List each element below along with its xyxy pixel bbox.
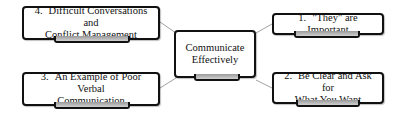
- branch-node-4: 4.Difficult Conversations and Conflict M…: [22, 6, 160, 40]
- branch-4-line1: Difficult Conversations and: [49, 5, 148, 28]
- branch-4-tab: [54, 36, 130, 43]
- center-node: Communicate Effectively: [174, 30, 256, 78]
- branch-3-tab: [54, 102, 130, 109]
- branch-2-tab: [296, 100, 360, 107]
- branch-1-number: 1.: [298, 12, 306, 23]
- branch-3-number: 3.: [41, 71, 49, 82]
- branch-node-2: 2.Be Clear and Ask for What You Want: [272, 72, 384, 104]
- center-label-line2: Effectively: [186, 54, 245, 66]
- branch-node-3: 3.An Example of Poor Verbal Communicatio…: [22, 72, 160, 106]
- branch-3-line1: An Example of Poor Verbal: [55, 71, 142, 94]
- branch-4-number: 4.: [35, 5, 43, 16]
- center-tab: [194, 74, 240, 81]
- branch-2-line1: Be Clear and Ask for: [298, 70, 372, 93]
- center-label-line1: Communicate: [186, 42, 245, 54]
- branch-1-tab: [294, 31, 360, 38]
- branch-node-1: 1."They" are Important: [272, 13, 384, 35]
- branch-2-number: 2.: [284, 70, 292, 81]
